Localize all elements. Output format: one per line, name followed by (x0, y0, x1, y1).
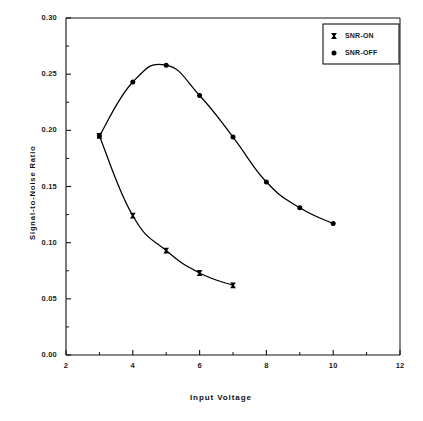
x-tick-label: 4 (113, 361, 153, 370)
y-tick-label: 0.30 (0, 13, 57, 22)
marker-x-square (163, 248, 169, 254)
y-tick-label: 0.25 (0, 69, 57, 78)
marker-glyph (130, 213, 136, 219)
marker-glyph (230, 282, 236, 288)
plot-canvas (0, 0, 423, 421)
y-tick-label: 0.05 (0, 294, 57, 303)
x-tick-label: 10 (313, 361, 353, 370)
legend-frame (323, 24, 399, 64)
marker-glyph (197, 270, 203, 276)
series-line (99, 64, 333, 223)
marker-filled-circle (97, 133, 102, 138)
legend-label-snr-off[interactable]: SNR-OFF (345, 49, 378, 56)
marker-filled-circle (297, 205, 302, 210)
marker-filled-circle (197, 93, 202, 98)
series-snr-off (97, 63, 336, 226)
marker-x-square (130, 213, 136, 219)
axes-group (66, 18, 400, 355)
y-tick-label: 0.00 (0, 350, 57, 359)
y-axis-title: Signal-to-Noise Ratio (28, 145, 37, 240)
legend-marker-filled-circle (332, 51, 337, 56)
series-line (99, 136, 233, 285)
marker-filled-circle (130, 80, 135, 85)
y-tick-label: 0.20 (0, 125, 57, 134)
marker-glyph (163, 248, 169, 254)
marker-filled-circle (331, 221, 336, 226)
marker-filled-circle (264, 180, 269, 185)
marker-filled-circle (164, 63, 169, 68)
marker-x-square (230, 282, 236, 288)
x-tick-label: 12 (380, 361, 420, 370)
series-snr-on (97, 133, 236, 288)
x-tick-label: 2 (46, 361, 86, 370)
x-tick-label: 6 (180, 361, 220, 370)
x-tick-label: 8 (246, 361, 286, 370)
x-axis-title: Input Voltage (190, 393, 252, 402)
marker-filled-circle (231, 135, 236, 140)
legend-label-snr-on[interactable]: SNR-ON (345, 32, 374, 39)
legend-box (323, 24, 399, 64)
data-series-group (97, 63, 336, 289)
marker-x-square (197, 270, 203, 276)
chart-figure: 0.000.050.100.150.200.250.3024681012 Sig… (0, 0, 423, 421)
